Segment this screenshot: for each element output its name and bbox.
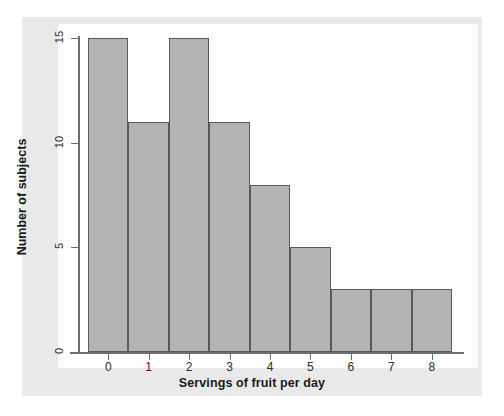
y-axis-tick-label: 15 [53, 28, 65, 46]
x-axis-tick-label: 2 [169, 360, 209, 374]
bar [331, 289, 371, 352]
y-axis-tick-mark [71, 143, 78, 144]
bar [88, 38, 128, 352]
bar [169, 38, 209, 352]
x-axis-tick-label: 6 [331, 360, 371, 374]
x-axis-line [70, 352, 464, 354]
x-axis-title: Servings of fruit per day [0, 376, 504, 390]
y-axis-tick-mark [71, 352, 78, 353]
y-axis-tick-label: 0 [53, 342, 65, 360]
x-axis-tick-label: 7 [371, 360, 411, 374]
bar [412, 289, 452, 352]
bar [290, 247, 330, 352]
y-axis-tick-label: 10 [53, 133, 65, 151]
x-axis-tick-label: 3 [210, 360, 250, 374]
bar [209, 122, 249, 352]
histogram-figure: 051015 012345678 Servings of fruit per d… [0, 0, 504, 416]
bar [128, 122, 168, 352]
bar [371, 289, 411, 352]
y-axis-tick-mark [71, 38, 78, 39]
bar [250, 185, 290, 352]
x-axis-tick-label: 4 [250, 360, 290, 374]
x-axis-tick-label: 0 [88, 360, 128, 374]
y-axis-line [78, 36, 80, 354]
x-axis-tick-label: 5 [290, 360, 330, 374]
y-axis-title: Number of subjects [15, 117, 29, 277]
y-axis-tick-label: 5 [53, 237, 65, 255]
x-axis-tick-label: 1 [129, 360, 169, 374]
x-axis-tick-label: 8 [412, 360, 452, 374]
y-axis-tick-mark [71, 247, 78, 248]
